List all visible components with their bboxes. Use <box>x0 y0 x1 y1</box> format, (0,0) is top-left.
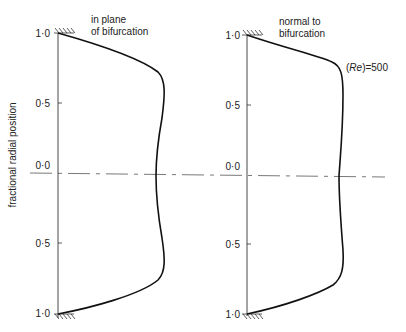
wall-hatch-bottom-icon <box>242 314 263 319</box>
left-panel-title-line2: of bifurcation <box>91 26 148 37</box>
centerline <box>30 173 385 177</box>
tick-label: 0·0 <box>36 160 51 171</box>
tick-label: 0·5 <box>226 239 241 250</box>
velocity-profile-figure: fractional radial position 1·0 0 <box>0 0 406 332</box>
y-axis-label: fractional radial position <box>7 102 18 207</box>
panel-in-plane: 1·0 0·5 0·0 0·5 1·0 in plane of bifurcat… <box>36 14 165 319</box>
right-panel-title-line1: normal to <box>279 16 321 27</box>
right-panel-title-line2: bifurcation <box>279 28 325 39</box>
tick-label: 0·0 <box>226 161 241 172</box>
wall-hatch-bottom-icon <box>54 314 75 319</box>
tick-label: 0·5 <box>36 98 51 109</box>
tick-label: 0·5 <box>36 238 51 249</box>
right-velocity-profile <box>247 35 343 314</box>
tick-label: 1·0 <box>36 308 51 319</box>
wall-hatch-top-icon <box>242 30 263 35</box>
tick-label: 1·0 <box>36 28 51 39</box>
tick-label: 1·0 <box>226 30 241 41</box>
tick-label: 1·0 <box>226 309 241 320</box>
left-panel-title-line1: in plane <box>91 14 126 25</box>
wall-hatch-top-icon <box>54 28 75 33</box>
reynolds-annotation: (Re)=500 <box>346 62 388 73</box>
tick-label: 0·5 <box>226 100 241 111</box>
panel-normal: 1·0 0·5 0·0 0·5 1·0 normal to bifurcatio… <box>226 16 389 320</box>
